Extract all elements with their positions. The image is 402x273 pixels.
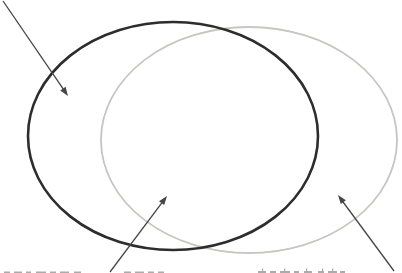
venn-diagram-figure xyxy=(0,0,402,273)
caption-fragment-bottom-right xyxy=(258,269,345,273)
arrow-to-intersection-region xyxy=(110,196,167,272)
venn-diagram-svg xyxy=(0,0,402,273)
arrowhead-icon xyxy=(159,196,167,205)
set-a-ellipse xyxy=(28,22,318,250)
arrowhead-icon xyxy=(338,195,346,204)
set-b-ellipse xyxy=(101,27,397,253)
arrowhead-icon xyxy=(60,87,68,96)
arrow-to-right-set-region xyxy=(338,195,394,271)
arrow-line xyxy=(3,1,64,89)
arrow-to-left-set-region xyxy=(3,1,68,96)
arrow-line xyxy=(343,202,394,272)
set-b-ellipse-outline xyxy=(101,27,397,253)
